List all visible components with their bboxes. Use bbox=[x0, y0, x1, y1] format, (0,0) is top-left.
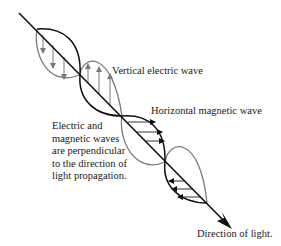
electric-wave-label: Vertical electric wave bbox=[112, 65, 203, 78]
perpendicular-note: Electric and magnetic waves are perpendi… bbox=[52, 120, 127, 183]
direction-label: Direction of light. bbox=[197, 228, 273, 241]
magnetic-wave-label: Horizontal magnetic wave bbox=[151, 105, 262, 118]
em-wave-diagram bbox=[0, 0, 281, 246]
arrowhead-icon bbox=[217, 212, 232, 229]
